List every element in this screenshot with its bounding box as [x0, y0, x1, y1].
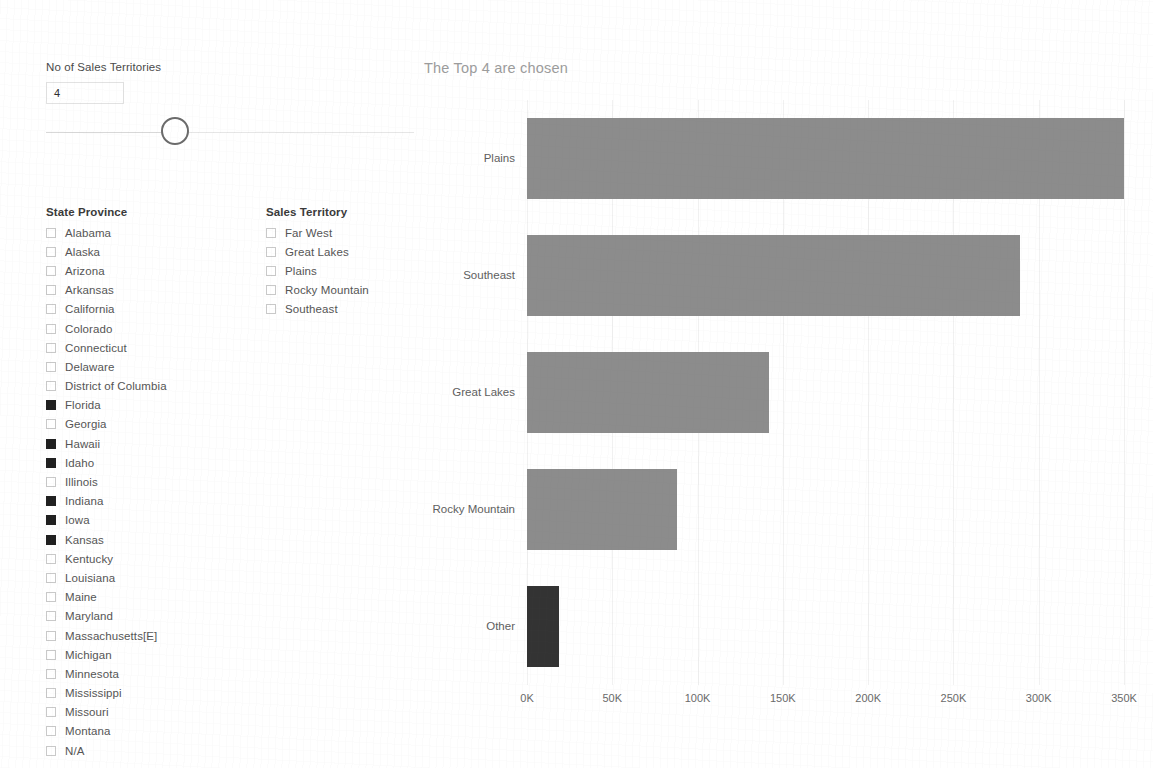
- bar[interactable]: [527, 586, 559, 668]
- checkbox-unchecked-icon[interactable]: [46, 669, 56, 679]
- state-province-item[interactable]: Arizona: [46, 261, 246, 280]
- bar[interactable]: [527, 352, 769, 434]
- state-province-item[interactable]: Montana: [46, 722, 246, 741]
- checkbox-unchecked-icon[interactable]: [46, 573, 56, 583]
- state-province-item[interactable]: Connecticut: [46, 338, 246, 357]
- checkbox-unchecked-icon[interactable]: [46, 419, 56, 429]
- state-province-item[interactable]: Colorado: [46, 319, 246, 338]
- state-province-item[interactable]: Iowa: [46, 511, 246, 530]
- state-province-title: State Province: [46, 206, 246, 218]
- state-province-item[interactable]: Maine: [46, 588, 246, 607]
- state-province-item[interactable]: Alaska: [46, 242, 246, 261]
- state-province-item[interactable]: Illinois: [46, 472, 246, 491]
- sales-territory-item[interactable]: Plains: [266, 261, 436, 280]
- checkbox-unchecked-icon[interactable]: [266, 304, 276, 314]
- x-axis-tick-label: 250K: [941, 692, 967, 704]
- state-province-item[interactable]: Minnesota: [46, 664, 246, 683]
- x-axis-tick-label: 150K: [770, 692, 796, 704]
- checkbox-unchecked-icon[interactable]: [46, 611, 56, 621]
- checkbox-unchecked-icon[interactable]: [266, 228, 276, 238]
- slider-caption: No of Sales Territories: [46, 61, 161, 73]
- state-province-item[interactable]: Michigan: [46, 645, 246, 664]
- checkbox-unchecked-icon[interactable]: [46, 362, 56, 372]
- checkbox-unchecked-icon[interactable]: [46, 266, 56, 276]
- sales-territories-count-input[interactable]: 4: [46, 82, 124, 104]
- checkbox-checked-icon[interactable]: [46, 458, 56, 468]
- state-province-item[interactable]: Georgia: [46, 415, 246, 434]
- checkbox-checked-icon[interactable]: [46, 400, 56, 410]
- state-province-item[interactable]: Kentucky: [46, 549, 246, 568]
- checkbox-unchecked-icon[interactable]: [46, 228, 56, 238]
- checkbox-unchecked-icon[interactable]: [46, 592, 56, 602]
- state-province-item[interactable]: Delaware: [46, 357, 246, 376]
- state-province-label: Florida: [65, 399, 101, 411]
- state-province-label: Arkansas: [65, 284, 114, 296]
- sales-territory-item[interactable]: Rocky Mountain: [266, 281, 436, 300]
- state-province-item[interactable]: Arkansas: [46, 281, 246, 300]
- state-province-item[interactable]: Louisiana: [46, 568, 246, 587]
- checkbox-unchecked-icon[interactable]: [46, 324, 56, 334]
- state-province-item[interactable]: Massachusetts[E]: [46, 626, 246, 645]
- chart-plot-area: PlainsSoutheastGreat LakesRocky Mountain…: [527, 100, 1124, 685]
- checkbox-checked-icon[interactable]: [46, 439, 56, 449]
- sales-territory-label: Southeast: [285, 303, 338, 315]
- sales-territory-item[interactable]: Far West: [266, 223, 436, 242]
- x-axis-tick-label: 100K: [685, 692, 711, 704]
- bar[interactable]: [527, 235, 1020, 317]
- sales-territories-slider[interactable]: [46, 112, 414, 154]
- checkbox-unchecked-icon[interactable]: [46, 343, 56, 353]
- state-province-label: Connecticut: [65, 342, 127, 354]
- checkbox-unchecked-icon[interactable]: [46, 631, 56, 641]
- sales-territory-item[interactable]: Southeast: [266, 300, 436, 319]
- checkbox-unchecked-icon[interactable]: [46, 554, 56, 564]
- state-province-label: Missouri: [65, 706, 109, 718]
- state-province-item[interactable]: California: [46, 300, 246, 319]
- state-province-item[interactable]: Hawaii: [46, 434, 246, 453]
- checkbox-unchecked-icon[interactable]: [266, 285, 276, 295]
- checkbox-unchecked-icon[interactable]: [266, 266, 276, 276]
- checkbox-checked-icon[interactable]: [46, 535, 56, 545]
- state-province-label: Delaware: [65, 361, 114, 373]
- bar-row: Southeast: [527, 235, 1124, 317]
- checkbox-unchecked-icon[interactable]: [46, 688, 56, 698]
- bar-chart: PlainsSoutheastGreat LakesRocky Mountain…: [424, 100, 1124, 720]
- state-province-item[interactable]: Maryland: [46, 607, 246, 626]
- checkbox-unchecked-icon[interactable]: [46, 650, 56, 660]
- state-province-item[interactable]: District of Columbia: [46, 377, 246, 396]
- checkbox-unchecked-icon[interactable]: [46, 477, 56, 487]
- checkbox-unchecked-icon[interactable]: [46, 285, 56, 295]
- sales-territory-list: Far WestGreat LakesPlainsRocky MountainS…: [266, 223, 436, 319]
- sales-territory-item[interactable]: Great Lakes: [266, 242, 436, 261]
- state-province-item[interactable]: Indiana: [46, 492, 246, 511]
- state-province-label: Indiana: [65, 495, 103, 507]
- state-province-label: Massachusetts[E]: [65, 630, 157, 642]
- state-province-item[interactable]: Mississippi: [46, 684, 246, 703]
- state-province-item[interactable]: Alabama: [46, 223, 246, 242]
- checkbox-unchecked-icon[interactable]: [46, 726, 56, 736]
- state-province-label: Colorado: [65, 323, 112, 335]
- checkbox-unchecked-icon[interactable]: [46, 381, 56, 391]
- bar-row: Rocky Mountain: [527, 469, 1124, 551]
- slider-handle[interactable]: [161, 117, 189, 145]
- sales-territory-title: Sales Territory: [266, 206, 436, 218]
- checkbox-unchecked-icon[interactable]: [46, 304, 56, 314]
- bar[interactable]: [527, 118, 1124, 200]
- state-province-item[interactable]: N/A: [46, 741, 246, 760]
- bar-row: Great Lakes: [527, 352, 1124, 434]
- checkbox-unchecked-icon[interactable]: [46, 746, 56, 756]
- category-label: Rocky Mountain: [433, 503, 515, 515]
- state-province-item[interactable]: Florida: [46, 396, 246, 415]
- checkbox-unchecked-icon[interactable]: [46, 707, 56, 717]
- checkbox-checked-icon[interactable]: [46, 515, 56, 525]
- state-province-label: Montana: [65, 725, 110, 737]
- sales-territory-label: Plains: [285, 265, 317, 277]
- bar-row: Plains: [527, 118, 1124, 200]
- state-province-label: California: [65, 303, 115, 315]
- state-province-item[interactable]: Idaho: [46, 453, 246, 472]
- checkbox-unchecked-icon[interactable]: [46, 247, 56, 257]
- state-province-item[interactable]: Kansas: [46, 530, 246, 549]
- state-province-item[interactable]: Missouri: [46, 703, 246, 722]
- checkbox-unchecked-icon[interactable]: [266, 247, 276, 257]
- checkbox-checked-icon[interactable]: [46, 496, 56, 506]
- bar[interactable]: [527, 469, 677, 551]
